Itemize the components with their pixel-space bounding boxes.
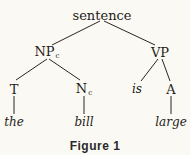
node-sentence-label: sentence xyxy=(72,8,131,23)
node-np-label: NP xyxy=(34,44,54,59)
leaf-the-label: the xyxy=(4,115,24,129)
syntax-tree-diagram: sentence NPc VP T Nc is A the bill large… xyxy=(0,0,190,155)
node-t: T xyxy=(10,83,19,96)
edge-sentence-vp xyxy=(104,21,155,45)
node-sentence: sentence xyxy=(72,9,131,22)
edge-sentence-np xyxy=(52,21,100,45)
edge-vp-is xyxy=(141,59,158,81)
leaf-the: the xyxy=(4,116,24,128)
node-t-label: T xyxy=(10,82,19,97)
leaf-bill-label: bill xyxy=(74,115,93,129)
node-n-subscript: c xyxy=(88,89,92,97)
edge-np-n xyxy=(49,59,80,80)
node-vp-label: VP xyxy=(151,45,169,60)
node-n: Nc xyxy=(76,82,92,97)
node-a: A xyxy=(166,83,175,96)
node-a-label: A xyxy=(166,82,175,97)
tree-edges xyxy=(0,0,190,155)
node-np-subscript: c xyxy=(56,52,60,60)
figure-caption: Figure 1 xyxy=(70,139,121,153)
leaf-large-label: large xyxy=(155,115,187,129)
edge-vp-a xyxy=(162,59,170,81)
node-n-label: N xyxy=(76,81,87,96)
node-is: is xyxy=(132,83,142,95)
leaf-large: large xyxy=(155,116,187,128)
node-np: NPc xyxy=(34,45,59,60)
node-vp: VP xyxy=(151,46,169,59)
edge-np-t xyxy=(16,59,47,80)
leaf-bill: bill xyxy=(74,116,93,128)
node-is-label: is xyxy=(132,82,142,96)
